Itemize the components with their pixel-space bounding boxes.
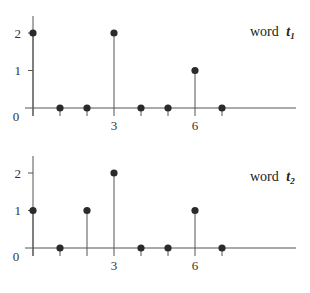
origin-label: 0 xyxy=(13,109,20,124)
stem-marker xyxy=(110,169,117,176)
stem-marker xyxy=(164,104,171,111)
stem-marker xyxy=(110,29,117,36)
stem-marker xyxy=(191,67,198,74)
origin-label: 0 xyxy=(13,249,20,264)
x-tick-label: 6 xyxy=(192,118,199,133)
stem-marker xyxy=(56,244,63,251)
stem-marker xyxy=(191,207,198,214)
y-tick-label: 2 xyxy=(15,166,22,181)
stem-marker xyxy=(218,244,225,251)
series-label: word t2 xyxy=(250,169,295,186)
plot-word-t1: 12036word t1 xyxy=(13,16,296,133)
stem-marker xyxy=(83,104,90,111)
stem-marker xyxy=(137,104,144,111)
stem-marker xyxy=(164,244,171,251)
y-tick-label: 2 xyxy=(15,26,22,41)
x-tick-label: 6 xyxy=(192,258,199,273)
stem-marker xyxy=(29,29,36,36)
stem-marker xyxy=(29,207,36,214)
y-tick-label: 1 xyxy=(15,63,22,78)
stem-marker xyxy=(83,207,90,214)
plot-word-t2: 12036word t2 xyxy=(13,156,296,273)
y-tick-label: 1 xyxy=(15,203,22,218)
stem-charts: 12036word t1 12036word t2 xyxy=(0,0,310,293)
stem-marker xyxy=(218,104,225,111)
x-tick-label: 3 xyxy=(111,258,118,273)
stem-marker xyxy=(137,244,144,251)
x-tick-label: 3 xyxy=(111,118,118,133)
stem-marker xyxy=(56,104,63,111)
series-label: word t1 xyxy=(250,24,295,41)
